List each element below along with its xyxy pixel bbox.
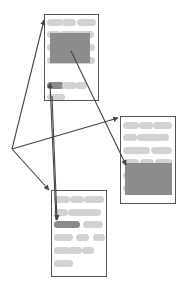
text-line (75, 82, 87, 89)
text-line (54, 234, 73, 241)
text-line (83, 221, 103, 228)
text-line (47, 19, 63, 26)
documents-layer (45, 15, 176, 277)
text-line (54, 247, 70, 254)
text-line (62, 19, 76, 26)
highlighted-block (125, 163, 172, 195)
text-line (68, 209, 101, 216)
highlighted-block (50, 33, 90, 63)
text-line (47, 94, 65, 100)
text-line (54, 260, 73, 267)
text-line (123, 147, 150, 154)
arrow-hub-to-top (12, 20, 44, 149)
doc-right (121, 117, 176, 204)
arrow-hub-to-bottom (12, 149, 49, 190)
highlighted-text-line (54, 221, 80, 228)
text-line (70, 196, 84, 203)
text-line (84, 196, 104, 203)
doc-bottom (52, 191, 107, 277)
diagram-canvas (0, 0, 184, 286)
text-line (62, 82, 76, 89)
text-line (76, 234, 89, 241)
text-line (123, 134, 137, 141)
text-line (77, 19, 96, 26)
arrow-hub-to-right (12, 118, 118, 149)
text-line (139, 122, 153, 129)
doc-top (45, 15, 99, 101)
text-line (82, 247, 94, 254)
text-line (68, 247, 82, 254)
text-line (153, 122, 172, 129)
text-line (137, 134, 169, 141)
text-line (151, 147, 172, 154)
text-line (123, 122, 139, 129)
text-line (93, 234, 105, 241)
